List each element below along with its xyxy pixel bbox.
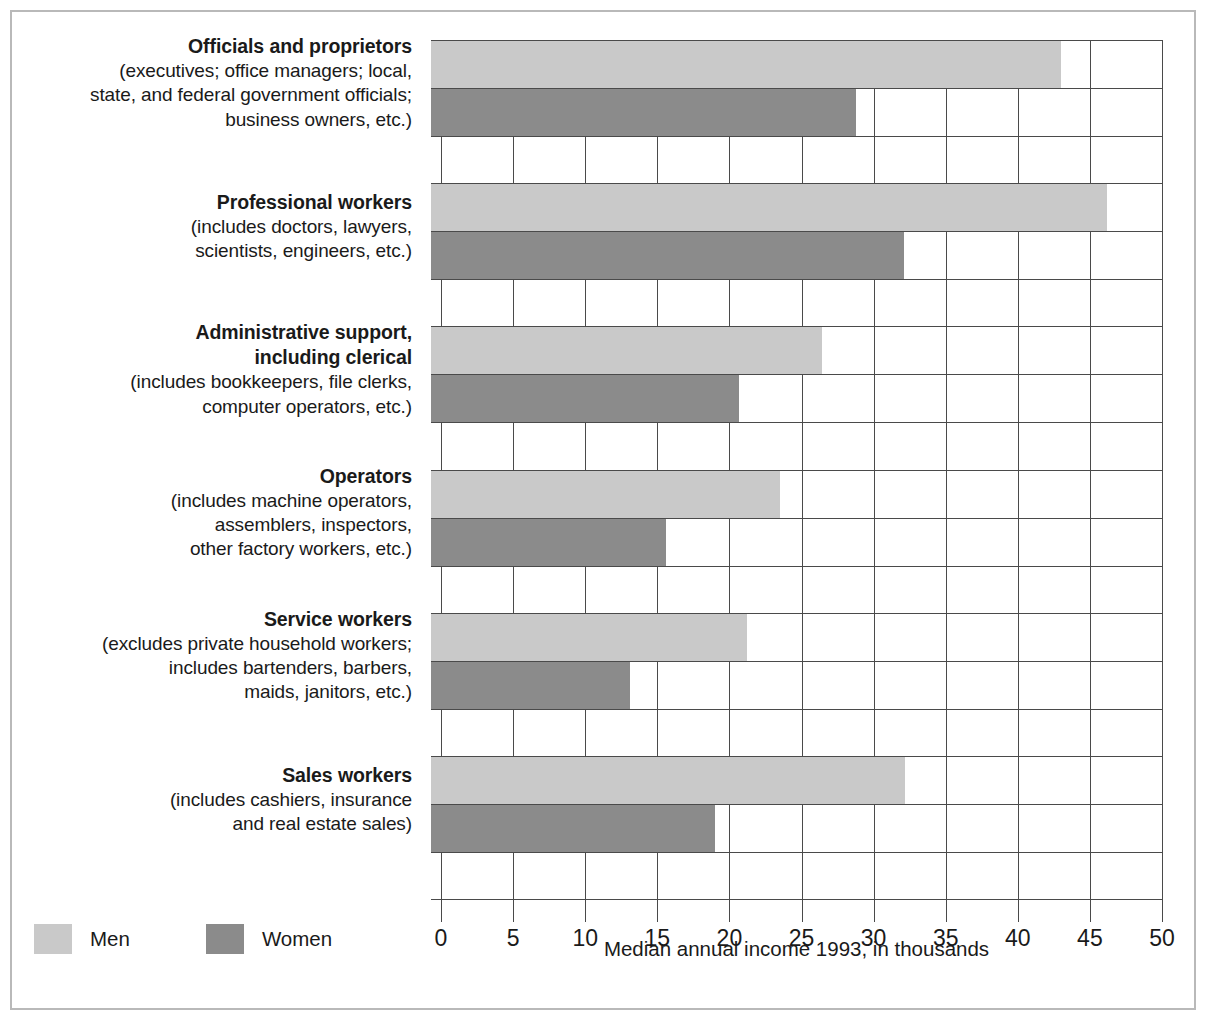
- category-subtitle: computer operators, etc.): [12, 395, 412, 419]
- group-rule: [431, 422, 1162, 423]
- category-title: Sales workers: [12, 763, 412, 788]
- category-subtitle: includes bartenders, barbers,: [12, 656, 412, 680]
- legend-swatch: [34, 924, 72, 954]
- plot-area: [431, 40, 1162, 899]
- tick-mark: [513, 899, 514, 922]
- tick-mark: [1162, 899, 1163, 922]
- gridline: [1162, 40, 1163, 899]
- category-subtitle: other factory workers, etc.): [12, 537, 412, 561]
- bar-women: [431, 375, 739, 422]
- chart-figure: Officials and proprietors(executives; of…: [10, 10, 1196, 1010]
- category-label: Service workers(excludes private househo…: [12, 607, 412, 705]
- tick-mark: [441, 899, 442, 922]
- category-title: Operators: [12, 464, 412, 489]
- bar-women: [431, 662, 630, 709]
- category-subtitle: (excludes private household workers;: [12, 632, 412, 656]
- legend-label: Women: [262, 927, 332, 951]
- bar-women: [431, 805, 715, 852]
- bar-women: [431, 519, 666, 566]
- chart-legend: MenWomen: [34, 924, 332, 954]
- category-subtitle: state, and federal government officials;: [12, 83, 412, 107]
- tick-mark: [657, 899, 658, 922]
- category-subtitle: assemblers, inspectors,: [12, 513, 412, 537]
- category-subtitle: (executives; office managers; local,: [12, 59, 412, 83]
- category-subtitle: scientists, engineers, etc.): [12, 239, 412, 263]
- category-subtitle: and real estate sales): [12, 812, 412, 836]
- group-rule: [431, 279, 1162, 280]
- group-rule: [431, 709, 1162, 710]
- bar-men: [431, 471, 780, 518]
- bar-men: [431, 184, 1107, 231]
- category-title: Administrative support,: [12, 320, 412, 345]
- bar-men: [431, 757, 905, 804]
- legend-item-women: Women: [206, 924, 332, 954]
- category-label: Officials and proprietors(executives; of…: [12, 34, 412, 132]
- tick-mark: [1018, 899, 1019, 922]
- category-subtitle: (includes doctors, lawyers,: [12, 215, 412, 239]
- category-title: Officials and proprietors: [12, 34, 412, 59]
- tick-mark: [802, 899, 803, 922]
- x-axis-title: Median annual income 1993, in thousands: [431, 937, 1162, 961]
- category-subtitle: (includes bookkeepers, file clerks,: [12, 370, 412, 394]
- tick-mark: [946, 899, 947, 922]
- category-label: Operators(includes machine operators,ass…: [12, 464, 412, 562]
- category-title: including clerical: [12, 345, 412, 370]
- legend-item-men: Men: [34, 924, 130, 954]
- category-label: Professional workers(includes doctors, l…: [12, 190, 412, 264]
- category-title: Professional workers: [12, 190, 412, 215]
- bar-men: [431, 41, 1061, 88]
- category-title: Service workers: [12, 607, 412, 632]
- bar-women: [431, 89, 856, 136]
- category-label: Administrative support,including clerica…: [12, 320, 412, 419]
- tick-mark: [585, 899, 586, 922]
- category-subtitle: maids, janitors, etc.): [12, 680, 412, 704]
- category-label-column: Officials and proprietors(executives; of…: [12, 12, 430, 1012]
- group-rule: [431, 136, 1162, 137]
- tick-mark: [874, 899, 875, 922]
- group-rule: [431, 566, 1162, 567]
- bar-men: [431, 327, 822, 374]
- category-subtitle: (includes machine operators,: [12, 489, 412, 513]
- legend-swatch: [206, 924, 244, 954]
- tick-mark: [1090, 899, 1091, 922]
- category-label: Sales workers(includes cashiers, insuran…: [12, 763, 412, 837]
- bar-men: [431, 614, 747, 661]
- legend-label: Men: [90, 927, 130, 951]
- group-rule: [431, 852, 1162, 853]
- tick-mark: [729, 899, 730, 922]
- category-subtitle: (includes cashiers, insurance: [12, 788, 412, 812]
- category-subtitle: business owners, etc.): [12, 108, 412, 132]
- bar-women: [431, 232, 904, 279]
